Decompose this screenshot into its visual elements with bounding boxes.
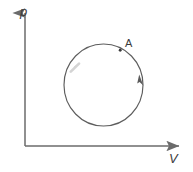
arrowhead-left-faded-icon: [70, 62, 81, 72]
state-point-a-label: A: [125, 38, 132, 49]
pv-diagram-figure: p V A: [0, 0, 193, 172]
cycle-path: [64, 44, 143, 126]
pressure-axis-label: p: [20, 5, 27, 18]
state-point-a-dot: [119, 49, 122, 52]
pv-diagram-canvas: [0, 0, 193, 172]
volume-axis-label: V: [169, 152, 178, 165]
